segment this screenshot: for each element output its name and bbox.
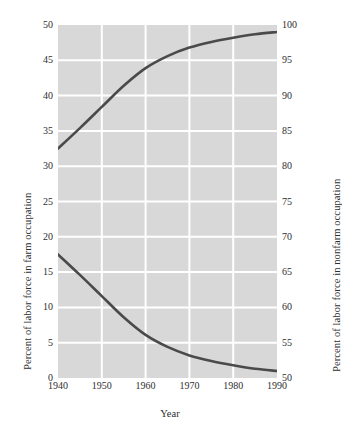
y-tick-label-left: 35: [43, 126, 53, 136]
y-tick-label-right: 80: [282, 161, 292, 171]
y-tick-label-left: 20: [43, 232, 53, 242]
y-tick-label-left: 50: [43, 20, 53, 30]
x-tick-label: 1970: [169, 381, 209, 391]
y-tick-label-right: 100: [282, 20, 297, 30]
y-tick-label-left: 5: [48, 338, 53, 348]
gridlines: [58, 25, 277, 378]
y-tick-label-right: 90: [282, 91, 292, 101]
y-axis-left-ticks: 05101520253035404550: [26, 25, 53, 378]
x-tick-label: 1940: [38, 381, 78, 391]
y-tick-label-right: 55: [282, 338, 292, 348]
plot-area: [58, 25, 277, 378]
x-tick-label: 1990: [257, 381, 297, 391]
y-axis-right-ticks: 50556065707580859095100: [282, 25, 310, 378]
x-tick-label: 1980: [213, 381, 253, 391]
x-axis-ticks: 194019501960197019801990: [58, 381, 277, 401]
x-tick-label: 1960: [126, 381, 166, 391]
y-tick-label-left: 25: [43, 197, 53, 207]
y-tick-label-right: 70: [282, 232, 292, 242]
x-axis-title: Year: [0, 408, 340, 419]
y-tick-label-right: 75: [282, 197, 292, 207]
y-tick-label-left: 15: [43, 267, 53, 277]
y-tick-label-right: 65: [282, 267, 292, 277]
y-tick-label-right: 60: [282, 302, 292, 312]
x-tick-label: 1950: [82, 381, 122, 391]
y-tick-label-right: 85: [282, 126, 292, 136]
y-tick-label-left: 40: [43, 91, 53, 101]
plot-canvas: [58, 25, 277, 378]
y-tick-label-left: 30: [43, 161, 53, 171]
y-axis-right-title: Percent of labor force in nonfarm occupa…: [331, 179, 342, 372]
y-tick-label-left: 45: [43, 55, 53, 65]
y-tick-label-left: 10: [43, 302, 53, 312]
y-tick-label-right: 95: [282, 55, 292, 65]
